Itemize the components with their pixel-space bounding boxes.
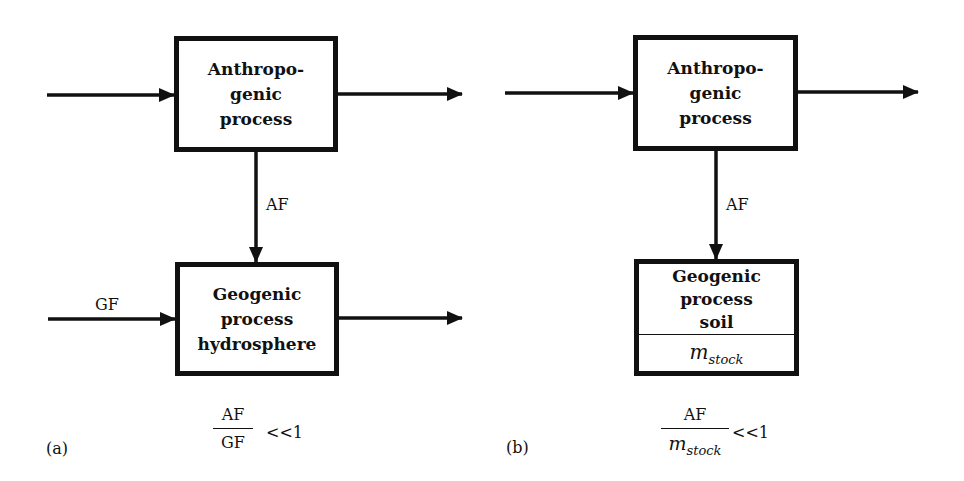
ratio-denominator: mstock (669, 429, 722, 462)
anthropogenic-process-box-b: Anthropo- genic process (633, 35, 798, 151)
stock-symbol: m (690, 340, 709, 364)
ratio-af-mstock: AF mstock (661, 405, 729, 462)
anthropogenic-process-box-a: Anthropo- genic process (174, 36, 338, 152)
denominator-symbol: m (669, 432, 687, 454)
ratio-denominator: GF (221, 429, 245, 454)
ratio-af-gf: AF GF (213, 405, 253, 454)
ratio-relation-b: <<1 (732, 423, 769, 442)
box-title: Anthropo- genic process (667, 56, 763, 131)
box-title: Geogenic process hydrosphere (198, 282, 317, 357)
ratio-numerator: AF (684, 405, 707, 428)
box-title: Geogenic process soil (672, 265, 761, 334)
ratio-relation-a: <<1 (266, 423, 303, 442)
box-upper-section: Geogenic process soil (639, 264, 794, 335)
stock-mass-symbol: mstock (690, 340, 744, 367)
diagram-connectors (0, 0, 964, 481)
af-label-a: AF (266, 196, 289, 214)
stock-subscript: stock (709, 352, 744, 367)
box-title: Anthropo- genic process (208, 57, 304, 132)
stock-section: mstock (639, 335, 794, 371)
denominator-subscript: stock (687, 443, 722, 458)
gf-label: GF (95, 296, 119, 314)
geogenic-process-hydrosphere-box: Geogenic process hydrosphere (175, 262, 339, 376)
panel-label-b: (b) (506, 438, 529, 457)
af-label-b: AF (726, 196, 749, 214)
ratio-numerator: AF (222, 405, 245, 428)
geogenic-process-soil-box: Geogenic process soil mstock (634, 259, 799, 376)
panel-label-a: (a) (46, 439, 68, 458)
